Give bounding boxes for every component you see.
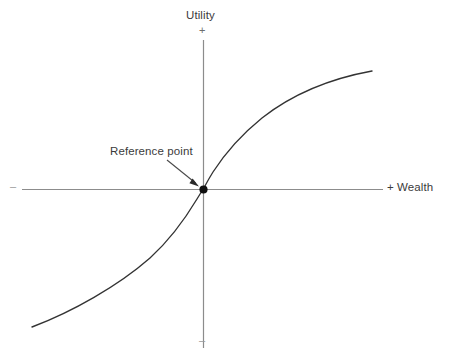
x-axis-title: + Wealth [387,181,433,193]
chart-canvas [0,0,449,359]
y-axis-negative-marker: – [199,334,205,346]
utility-function-chart: Utility + – – + Wealth Reference point [0,0,449,359]
utility-curve-gains [203,71,372,190]
reference-point-arrow-shaft [167,160,196,183]
reference-point-annotation-label: Reference point [110,145,193,157]
x-axis-negative-marker: – [10,180,16,192]
origin-marker [199,185,207,193]
utility-curve-losses [32,190,203,328]
y-axis-title: Utility [186,9,215,21]
y-axis-positive-marker: + [199,24,206,36]
